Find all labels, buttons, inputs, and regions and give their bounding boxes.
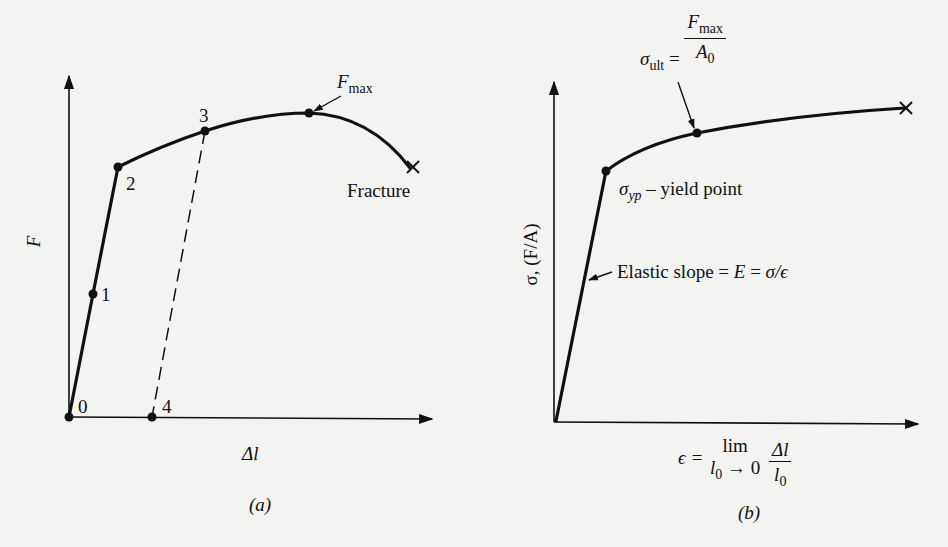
fmax-arrow bbox=[314, 96, 341, 111]
x-axis-label-b: ϵ = lim l0 → 0 Δl l0 bbox=[678, 436, 791, 489]
point-3 bbox=[201, 127, 210, 136]
strain-num: Δl bbox=[769, 440, 791, 462]
caption-a: (a) bbox=[249, 495, 271, 514]
fmax-sub: max bbox=[349, 81, 373, 96]
x-axis-b bbox=[554, 422, 918, 424]
elastic-slope-arrow bbox=[589, 272, 612, 280]
unloading-line bbox=[152, 131, 205, 417]
ult-num-sub: max bbox=[699, 21, 723, 36]
ult-num-main: F bbox=[687, 11, 699, 32]
sigma-yp-sub: yp bbox=[628, 188, 641, 203]
limit-expression: lim l0 → 0 bbox=[710, 436, 760, 482]
yield-point-label: σyp – yield point bbox=[619, 179, 742, 203]
yield-point-marker bbox=[602, 167, 611, 176]
yield-point-text: – yield point bbox=[646, 178, 742, 199]
ult-fraction: Fmax A0 bbox=[684, 12, 726, 66]
x-axis-a bbox=[69, 417, 432, 419]
sigma-yp-symbol: σ bbox=[619, 178, 628, 199]
ultimate-stress-label: σult = Fmax A0 bbox=[640, 12, 726, 66]
sigma-ult-sub: ult bbox=[649, 58, 664, 73]
point-0 bbox=[65, 413, 74, 422]
lim-var-sub: 0 bbox=[715, 467, 722, 482]
fmax-label: Fmax bbox=[337, 72, 373, 96]
point-fmax bbox=[305, 109, 314, 118]
elastic-E: E bbox=[734, 261, 746, 282]
lim-arrow-zero: → 0 bbox=[727, 457, 760, 478]
force-elongation-curve bbox=[69, 113, 410, 417]
caption-b: (b) bbox=[738, 503, 760, 522]
ult-den-sub: 0 bbox=[708, 51, 715, 66]
point-label-3: 3 bbox=[199, 106, 209, 125]
fmax-main: F bbox=[337, 71, 349, 92]
point-2 bbox=[114, 163, 123, 172]
y-axis-label-b: σ, (F/A) bbox=[521, 224, 540, 286]
sigma-ult-symbol: σ bbox=[640, 48, 649, 69]
x-axis-label-a: Δl bbox=[242, 444, 258, 463]
point-label-4: 4 bbox=[162, 397, 172, 416]
ult-equals: = bbox=[669, 48, 680, 69]
elastic-slope-label: Elastic slope = E = σ/ϵ bbox=[617, 262, 788, 281]
elastic-slope-text: Elastic slope = bbox=[617, 261, 734, 282]
stress-strain-figure: F 0 1 2 3 4 Fmax Fracture Δl (a) σ, (F/A… bbox=[0, 0, 948, 547]
figure-b bbox=[554, 82, 918, 424]
point-label-1: 1 bbox=[101, 285, 111, 304]
strain-den-sub: 0 bbox=[779, 474, 786, 489]
figure-a bbox=[65, 76, 433, 422]
point-label-2: 2 bbox=[126, 174, 136, 193]
lim-text: lim bbox=[710, 436, 760, 455]
ultimate-arrow bbox=[678, 82, 694, 128]
diagram-canvas bbox=[0, 0, 948, 547]
epsilon-equals: ϵ = bbox=[678, 447, 703, 468]
point-1 bbox=[89, 290, 98, 299]
delta-l-text: Δl bbox=[242, 443, 258, 464]
point-label-0: 0 bbox=[78, 397, 88, 416]
ult-den-main: A bbox=[696, 41, 708, 62]
elastic-eq: = bbox=[745, 261, 765, 282]
strain-fraction: Δl l0 bbox=[769, 440, 791, 489]
y-axis-label-a: F bbox=[24, 236, 43, 248]
ultimate-point-marker bbox=[693, 129, 702, 138]
elastic-rhs: σ/ϵ bbox=[766, 261, 788, 282]
point-4 bbox=[148, 413, 157, 422]
fracture-label: Fracture bbox=[347, 181, 410, 200]
